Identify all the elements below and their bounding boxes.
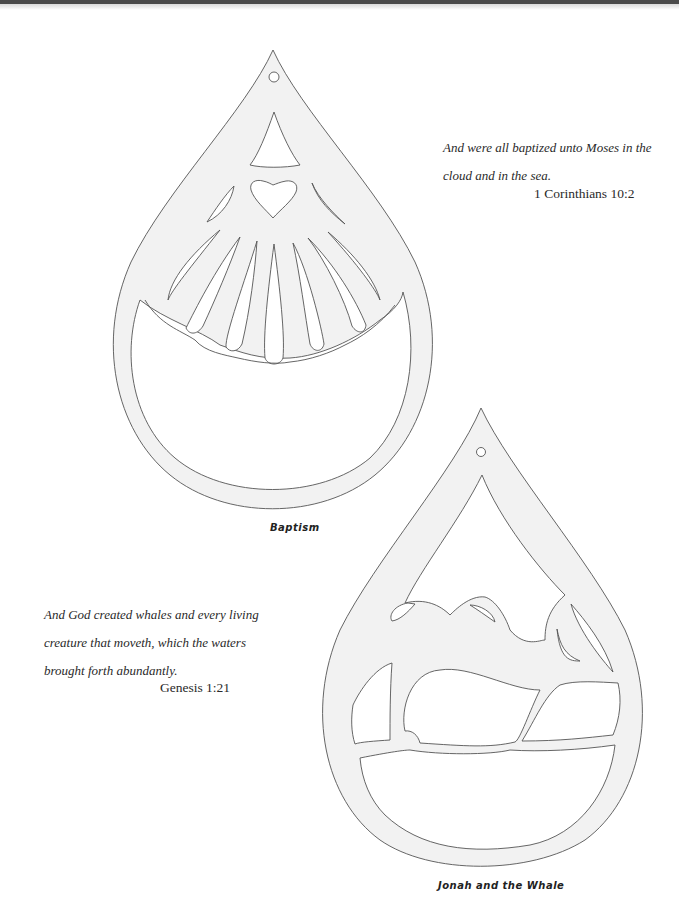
jonah-hang-hole bbox=[477, 448, 486, 457]
baptism-verse: And were all baptized unto Moses in the … bbox=[443, 134, 673, 190]
baptism-verse-line-1: And were all baptized unto Moses in the bbox=[443, 134, 673, 162]
jonah-verse-line-1: And God created whales and every living bbox=[44, 601, 304, 629]
baptism-verse-reference: 1 Corinthians 10:2 bbox=[534, 186, 635, 202]
baptism-caption: Baptism bbox=[270, 522, 320, 533]
jonah-verse: And God created whales and every living … bbox=[44, 601, 304, 685]
jonah-caption: Jonah and the Whale bbox=[438, 880, 564, 891]
baptism-hang-hole bbox=[269, 72, 279, 82]
baptism-ornament bbox=[113, 50, 432, 509]
jonah-verse-reference: Genesis 1:21 bbox=[160, 680, 230, 696]
jonah-verse-line-2: creature that moveth, which the waters bbox=[44, 629, 304, 657]
